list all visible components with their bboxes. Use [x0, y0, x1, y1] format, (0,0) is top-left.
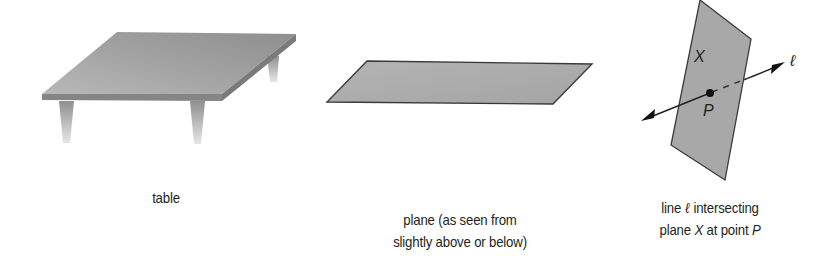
label-point-p: P — [703, 102, 714, 119]
arrow-right-icon — [771, 62, 785, 74]
caption-plane-line2: slightly above or below) — [363, 231, 557, 253]
caption-line-plane-line1: line ℓ intersecting — [622, 197, 798, 219]
table-leg-front-left — [59, 101, 74, 143]
table-leg-front-right — [190, 101, 205, 144]
caption-x: X — [694, 221, 703, 238]
caption-table-text: table — [122, 187, 210, 209]
caption-plane-line1: plane (as seen from — [363, 209, 557, 231]
line-plane-illustration: X P ℓ — [641, 0, 796, 180]
caption-text: at point — [703, 221, 752, 238]
arrow-left-icon — [641, 109, 655, 121]
caption-text: plane — [659, 221, 694, 238]
table-top — [42, 32, 296, 94]
caption-text: line — [661, 199, 684, 216]
plane-parallelogram — [327, 61, 592, 104]
label-plane-x: X — [693, 48, 706, 65]
caption-line-plane: line ℓ intersecting plane X at point P — [622, 197, 798, 241]
point-p — [706, 89, 714, 97]
table-front-edge — [42, 94, 222, 101]
caption-line-plane-line2: plane X at point P — [622, 219, 798, 241]
caption-text: intersecting — [690, 199, 759, 216]
caption-table: table — [122, 187, 210, 209]
label-line-ell: ℓ — [789, 52, 796, 69]
caption-p: P — [752, 221, 761, 238]
table-illustration — [42, 32, 296, 144]
caption-plane: plane (as seen from slightly above or be… — [363, 209, 557, 253]
